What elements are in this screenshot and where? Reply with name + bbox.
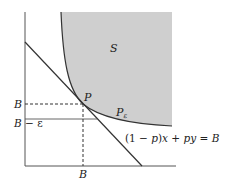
y-tick-b-minus-eps: B − ε	[13, 117, 43, 129]
equation-label: (1 − p)x + py = B	[125, 132, 220, 144]
y-tick-b: B	[13, 98, 22, 111]
point-label-p: P	[83, 91, 92, 104]
x-tick-b: B	[78, 168, 87, 181]
diagram-figure: S P Pε (1 − p)x + py = B B B − ε B	[0, 0, 233, 186]
region-label-s: S	[110, 42, 118, 55]
